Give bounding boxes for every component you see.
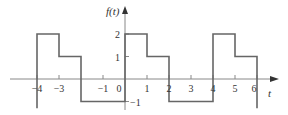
y-axis-arrow-icon [122, 6, 128, 14]
y-tick-labels: 21−1 [115, 29, 141, 108]
x-axis-arrow-icon [270, 76, 279, 82]
x-tick-label: −4 [32, 83, 43, 94]
y-axis-label: f(t) [106, 5, 120, 18]
y-tick-label: −1 [130, 97, 141, 108]
x-tick-label: 6 [252, 83, 257, 94]
x-tick-labels: −4−3−10123456 [32, 83, 257, 94]
x-tick-label: 1 [145, 83, 150, 94]
x-tick-label: −1 [98, 83, 109, 94]
y-tick-label: 2 [115, 29, 120, 40]
x-axis-label: t [268, 87, 272, 99]
y-tick-label: 1 [115, 52, 120, 63]
waveform-chart: f(t) t −4−3−10123456 21−1 [0, 0, 288, 115]
x-tick-label: 4 [211, 83, 216, 94]
x-tick-label: 2 [167, 83, 172, 94]
x-tick-label: 3 [189, 83, 194, 94]
signal-waveform [37, 34, 257, 108]
x-tick-label: −3 [54, 83, 65, 94]
x-tick-label: 5 [233, 83, 238, 94]
x-tick-label: 0 [117, 83, 122, 94]
chart-container: f(t) t −4−3−10123456 21−1 [0, 0, 288, 115]
x-ticks [37, 75, 257, 79]
